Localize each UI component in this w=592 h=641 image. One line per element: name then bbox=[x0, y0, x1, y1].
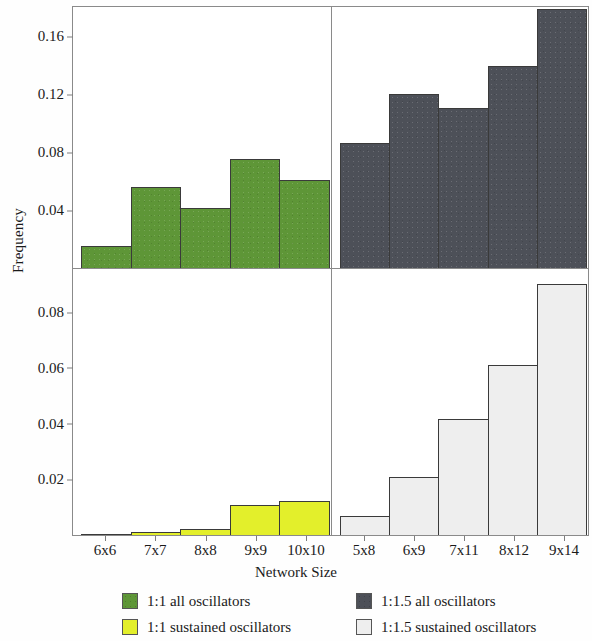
bar-bottom-right-8x12 bbox=[488, 365, 538, 535]
x-tick-label-left-8x8: 8x8 bbox=[180, 536, 230, 559]
plot-area-bottom-right bbox=[332, 269, 588, 535]
bar-bottom-right-9x14 bbox=[537, 284, 587, 535]
bar-top-left-9x9 bbox=[230, 159, 281, 268]
x-tick-label-left-10x10: 10x10 bbox=[281, 536, 331, 559]
bar-top-left-6x6 bbox=[81, 246, 132, 268]
x-tick-label-right-5x8: 5x8 bbox=[339, 536, 389, 559]
y-tick-label-0.08: 0.08 bbox=[38, 304, 73, 321]
y-tick-label-0.08: 0.08 bbox=[38, 144, 73, 161]
y-tick-label-0.04: 0.04 bbox=[38, 202, 73, 219]
legend-swatch-dark-gray-icon bbox=[356, 593, 372, 609]
plot-area-top-right bbox=[332, 7, 588, 268]
bar-group-green bbox=[81, 7, 330, 268]
y-axis-title: Frequency bbox=[10, 161, 27, 321]
x-tick-label-left-6x6: 6x6 bbox=[80, 536, 130, 559]
y-tick-label-0.12: 0.12 bbox=[38, 86, 73, 103]
legend-swatch-yellow-icon bbox=[122, 619, 138, 635]
legend-item-yellow: 1:1 sustained oscillators bbox=[122, 614, 356, 640]
bar-top-right-7x11 bbox=[438, 108, 488, 268]
legend-swatch-green-icon bbox=[122, 593, 138, 609]
bar-group-yellow bbox=[81, 269, 330, 535]
y-tick-label-0.06: 0.06 bbox=[38, 359, 73, 376]
panel-top-left: 0.040.080.120.16 bbox=[72, 6, 331, 268]
panel-bottom-left: 0.020.040.060.08 bbox=[72, 268, 331, 536]
x-tick-label-right-8x12: 8x12 bbox=[489, 536, 539, 559]
y-tick-label-0.02: 0.02 bbox=[38, 471, 73, 488]
bar-bottom-left-6x6 bbox=[81, 534, 132, 535]
x-tick-label-right-6x9: 6x9 bbox=[389, 536, 439, 559]
y-tick-label-0.04: 0.04 bbox=[38, 415, 73, 432]
bar-top-right-5x8 bbox=[340, 143, 390, 268]
bar-top-right-8x12 bbox=[488, 66, 538, 268]
legend-swatch-light-gray-icon bbox=[356, 619, 372, 635]
legend-item-green: 1:1 all oscillators bbox=[122, 588, 356, 614]
x-tick-label-right-7x11: 7x11 bbox=[439, 536, 489, 559]
legend-item-dark-gray: 1:1.5 all oscillators bbox=[356, 588, 590, 614]
bar-top-right-6x9 bbox=[389, 94, 439, 268]
bar-top-right-9x14 bbox=[537, 9, 587, 268]
x-axis-ticks-right: 5x86x97x118x129x14 bbox=[339, 536, 589, 566]
x-axis-title: Network Size bbox=[0, 564, 592, 581]
bar-group-dark-gray bbox=[340, 7, 587, 268]
bar-bottom-left-9x9 bbox=[230, 505, 281, 535]
legend-label-light-gray: 1:1.5 sustained oscillators bbox=[381, 620, 536, 635]
figure-histogram-grid: Frequency 0.040.080.120.16 0.020.040.060… bbox=[0, 0, 592, 641]
bar-top-left-10x10 bbox=[279, 180, 330, 268]
plot-area-top-left bbox=[73, 7, 331, 268]
bar-bottom-right-6x9 bbox=[389, 477, 439, 535]
panel-top-right bbox=[331, 6, 589, 268]
x-tick-label-right-9x14: 9x14 bbox=[539, 536, 589, 559]
x-tick-label-left-9x9: 9x9 bbox=[231, 536, 281, 559]
legend-item-light-gray: 1:1.5 sustained oscillators bbox=[356, 614, 590, 640]
x-axis-ticks-left: 6x67x78x89x910x10 bbox=[80, 536, 331, 566]
bar-bottom-right-5x8 bbox=[340, 516, 390, 535]
legend-label-dark-gray: 1:1.5 all oscillators bbox=[381, 594, 496, 609]
x-tick-label-left-7x7: 7x7 bbox=[130, 536, 180, 559]
bar-top-left-8x8 bbox=[180, 208, 231, 268]
bar-bottom-right-7x11 bbox=[438, 419, 488, 535]
bar-bottom-left-7x7 bbox=[131, 532, 182, 535]
legend: 1:1 all oscillators 1:1.5 all oscillator… bbox=[0, 588, 592, 640]
bar-group-light-gray bbox=[340, 269, 587, 535]
legend-label-yellow: 1:1 sustained oscillators bbox=[147, 620, 291, 635]
y-tick-label-0.16: 0.16 bbox=[38, 28, 73, 45]
bar-bottom-left-8x8 bbox=[180, 529, 231, 535]
legend-label-green: 1:1 all oscillators bbox=[147, 594, 250, 609]
panel-bottom-right bbox=[331, 268, 589, 536]
bar-bottom-left-10x10 bbox=[279, 501, 330, 535]
bar-top-left-7x7 bbox=[131, 187, 182, 268]
plot-area-bottom-left bbox=[73, 269, 331, 535]
